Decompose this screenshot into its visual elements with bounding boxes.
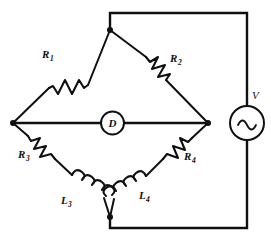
- resistor-r1-body: [49, 80, 88, 94]
- wire-r4-to-l4: [146, 159, 163, 176]
- label-r2-subscript: 2: [177, 58, 182, 67]
- label-source: V: [252, 89, 260, 101]
- bridge-detector-branch: D: [13, 112, 208, 135]
- branch-r4-l4: R 4 L 4: [104, 123, 209, 217]
- node-top: [107, 27, 113, 33]
- node-bottom: [107, 214, 113, 220]
- resistor-r2-body: [146, 57, 170, 80]
- wire-source-to-bottom: [110, 141, 247, 228]
- label-l3-subscript: 3: [67, 200, 72, 209]
- label-r1: R: [41, 48, 49, 60]
- node-left: [10, 120, 16, 126]
- resistor-r3-body: [28, 136, 55, 159]
- branch-r1: R 1: [13, 30, 110, 123]
- label-r4-subscript: 4: [191, 156, 196, 165]
- source-circle: [230, 106, 264, 140]
- inductor-l3-body: [72, 170, 115, 195]
- label-l3: L: [60, 194, 68, 206]
- wire-right-to-r4: [192, 123, 208, 138]
- label-r3-subscript: 3: [25, 154, 30, 163]
- node-right: [205, 120, 211, 126]
- label-r4: R: [183, 150, 191, 162]
- wire-r2-to-right: [166, 80, 208, 123]
- label-r2: R: [169, 52, 177, 64]
- label-l4-subscript: 4: [145, 195, 150, 204]
- branch-r2: R 2: [110, 30, 208, 123]
- label-l4: L: [138, 189, 146, 201]
- label-detector: D: [108, 117, 117, 129]
- wire-top-to-r2: [110, 30, 146, 57]
- label-r3: R: [17, 148, 25, 160]
- wire-r1-to-top: [88, 30, 110, 85]
- wire-r3-to-l3: [55, 159, 72, 175]
- circuit-diagram: R 1 R 2 R 3 L 3: [0, 0, 271, 241]
- schematic-canvas: R 1 R 2 R 3 L 3: [0, 0, 271, 241]
- wire-left-to-r1: [13, 88, 49, 123]
- branch-r3-l3: R 3 L 3: [13, 123, 115, 217]
- label-r1-subscript: 1: [50, 54, 54, 63]
